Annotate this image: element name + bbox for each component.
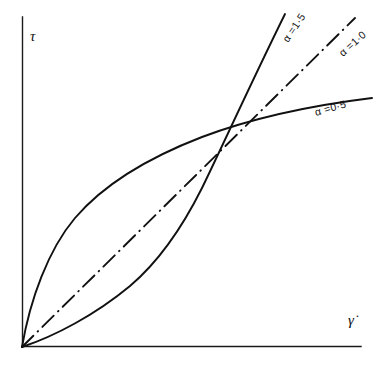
curve-alpha-1-5 (22, 14, 285, 347)
chart-svg: τ γ̇ α =1·5 α =1·0 α =0·5 (0, 0, 382, 368)
x-axis-label: γ̇ (348, 312, 359, 328)
curve-alpha-0-5 (22, 98, 372, 347)
y-axis-label: τ (30, 28, 36, 44)
rheology-chart-figure: τ γ̇ α =1·5 α =1·0 α =0·5 (0, 0, 382, 368)
curve-alpha-1-0 (22, 18, 355, 347)
curve-label-alpha-0-5: α =0·5 (313, 98, 347, 118)
curve-label-alpha-1-0: α =1·0 (336, 28, 368, 58)
